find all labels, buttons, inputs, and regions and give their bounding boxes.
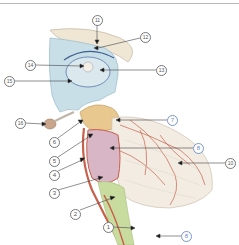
label-16: 16 <box>15 118 26 129</box>
label-6: 6 <box>49 137 60 148</box>
label-14: 14 <box>25 60 36 71</box>
label-13: 13 <box>156 65 167 76</box>
label-11: 11 <box>92 15 103 26</box>
label-15: 15 <box>4 76 15 87</box>
interthalamic-adhesion <box>83 62 93 72</box>
pons <box>87 130 120 183</box>
anatomy-illustration <box>0 0 239 245</box>
label-5: 5 <box>49 156 60 167</box>
label-1: 1 <box>103 222 114 233</box>
label-8-upper: 8 <box>193 143 204 154</box>
label-12: 12 <box>140 32 151 43</box>
label-7: 7 <box>167 115 178 126</box>
label-8-lower: 8 <box>181 231 192 242</box>
label-10: 10 <box>225 158 236 169</box>
label-4: 4 <box>49 170 60 181</box>
cerebellum <box>112 117 213 208</box>
label-3: 3 <box>49 188 60 199</box>
label-2: 2 <box>70 209 81 220</box>
